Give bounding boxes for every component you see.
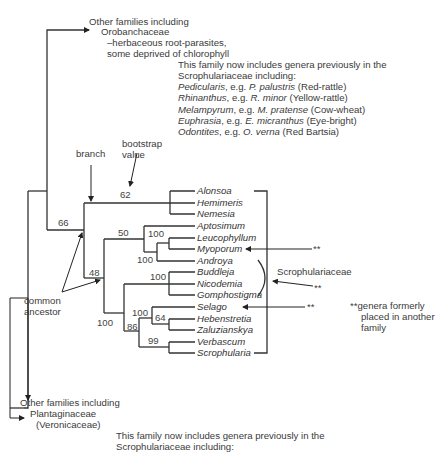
family-bracket [254, 191, 267, 353]
taxon-scrophularia: Scrophularia [197, 347, 251, 358]
taxon-verbascum: Verbascum [197, 336, 245, 347]
bootstrap-99: 99 [148, 336, 159, 346]
bottom-group-line2: Plantaginaceae [30, 408, 96, 420]
bootstrap-100-androya: 100 [137, 255, 153, 265]
bootstrap-100-leuco-myo: 100 [148, 229, 164, 239]
bottom-group-line3: (Veronicaceae) [36, 419, 101, 431]
top-note-intro1: This family now includes genera previous… [178, 59, 387, 71]
family-bracket-label: Scrophulariaceae [277, 266, 352, 278]
top-note-example-2: Rhinanthus, e.g. R. minor (Yellow-rattle… [178, 92, 348, 104]
bootstrap-50: 50 [118, 228, 129, 238]
top-note-example-4: Euphrasia, e.g. E. micranthus (Eye-brigh… [178, 115, 357, 127]
taxon-androya: Androya [197, 255, 233, 266]
bottom-note-line1: This family now includes genera previous… [116, 430, 325, 442]
common-ancestor-label-1: common [24, 295, 61, 307]
top-note-example-3: Melampyrum, e.g. M. pratense (Cow-wheat) [178, 104, 365, 116]
bootstrap-48: 48 [89, 268, 100, 278]
footnote-line1: **genera formerly [350, 300, 425, 312]
top-note-example-1: Pedicularis, e.g. P. palustris (Red-ratt… [178, 81, 346, 93]
bootstrap-64: 64 [155, 313, 166, 323]
top-group-line3: –herbaceous root-parasites, [107, 37, 226, 49]
common-ancestor-pointer-2 [62, 280, 100, 292]
orobanchaceae-branch [47, 30, 89, 230]
taxon-buddleja: Buddleja [197, 266, 234, 277]
scroph-marker-arrow [273, 281, 313, 286]
taxon-zaluzianskya: Zaluzianskya [197, 324, 253, 335]
top-note-example-5: Odontites, e.g. O. verna (Red Bartsia) [178, 126, 339, 138]
taxon-gomphostigma: Gomphostigma [197, 289, 262, 300]
bottom-note-line2: Scrophulariaceae including: [116, 441, 234, 453]
bootstrap-label-2: value [122, 149, 145, 161]
taxon-nemesia: Nemesia [197, 208, 235, 219]
bootstrap-label-1: bootstrap [122, 138, 162, 150]
marker-scroph: ** [314, 282, 321, 294]
bootstrap-66: 66 [58, 218, 69, 228]
bootstrap-86: 86 [127, 322, 138, 332]
taxon-nicodemia: Nicodemia [197, 278, 242, 289]
bootstrap-100-buddleja: 100 [150, 272, 166, 282]
taxon-selago: Selago [197, 301, 227, 312]
marker-selago: ** [307, 301, 314, 313]
top-note-intro2: Scrophulariaceae including: [178, 70, 296, 82]
top-group-line2: Orobanchaceae [101, 26, 169, 38]
taxon-leucophyllum: Leucophyllum [197, 232, 256, 243]
common-ancestor-label-2: ancestor [24, 306, 61, 318]
bootstrap-100-selago: 100 [132, 308, 148, 318]
taxon-hebenstretia: Hebenstretia [197, 313, 251, 324]
footnote-line3: family [361, 322, 386, 334]
bootstrap-62: 62 [120, 190, 131, 200]
branch-label: branch [76, 148, 105, 160]
taxon-myoporum: Myoporum [197, 243, 242, 254]
common-ancestor-pointer-1 [62, 233, 82, 292]
footnote-line2: placed in another [361, 311, 435, 323]
marker-myoporum: ** [313, 243, 320, 255]
taxon-aptosimum: Aptosimum [197, 220, 245, 231]
taxon-hemimeris: Hemimeris [197, 197, 243, 208]
bottom-group-line1: Other families including [20, 397, 120, 409]
top-group-line4: some deprived of chlorophyll [107, 48, 229, 60]
taxon-alonsoa: Alonsoa [197, 185, 232, 196]
bootstrap-100-lower: 100 [97, 318, 113, 328]
